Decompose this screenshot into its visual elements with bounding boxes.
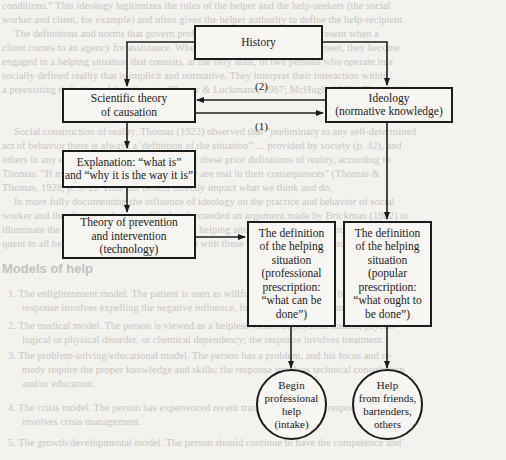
node-history-text: History <box>241 36 276 50</box>
node-begin-professional-help: Begin professional help (intake) <box>256 369 327 440</box>
node-explanation: Explanation: “what is” and “why it is th… <box>62 150 196 188</box>
node-text-line: of causation <box>101 106 157 120</box>
node-text-line: and “why it is the way it is” <box>65 169 193 183</box>
node-definition-professional: The definition of the helping situation … <box>247 221 336 327</box>
node-text-line: “what ought to <box>353 294 421 308</box>
node-text-line: bartenders, <box>363 405 412 418</box>
node-text-line: Scientific theory <box>91 92 167 106</box>
node-text-line: and intervention <box>91 230 166 244</box>
node-history: History <box>194 25 323 60</box>
node-text-line: Help <box>377 379 398 392</box>
node-text-line: situation <box>368 254 408 268</box>
node-text-line: prescription: <box>262 281 320 295</box>
node-help-from-friends: Help from friends, bartenders, others <box>352 369 423 440</box>
node-definition-popular: The definition of the helping situation … <box>343 221 432 327</box>
node-text-line: (normative knowledge) <box>335 105 443 119</box>
node-text-line: professional <box>265 392 319 405</box>
node-text-line: (professional <box>261 267 321 281</box>
edge-label-1: (1) <box>255 120 268 132</box>
node-text-line: (intake) <box>274 418 308 431</box>
node-text-line: (technology) <box>100 243 159 257</box>
node-text-line: situation <box>272 254 312 268</box>
node-text-line: done”) <box>276 308 307 322</box>
node-text-line: The definition <box>259 227 324 241</box>
node-text-line: others <box>374 418 401 431</box>
edge-history-to-ideology <box>322 42 387 85</box>
edge-history-to-science <box>127 42 194 86</box>
node-text-line: be done”) <box>365 308 410 322</box>
node-text-line: The definition <box>355 227 420 241</box>
node-scientific-theory: Scientific theory of causation <box>62 88 196 123</box>
node-text-line: help <box>282 405 301 418</box>
node-text-line: prescription: <box>358 281 416 295</box>
node-text-line: Explanation: “what is” <box>77 156 182 170</box>
node-theory-prevention: Theory of prevention and intervention (t… <box>62 214 196 259</box>
node-text-line: Theory of prevention <box>80 216 178 230</box>
node-text-line: from friends, <box>359 392 416 405</box>
node-text-line: of the helping <box>260 240 324 254</box>
node-text-line: (popular <box>368 267 407 281</box>
edge-label-2: (2) <box>255 80 268 92</box>
node-ideology: Ideology (normative knowledge) <box>325 87 453 123</box>
node-text-line: Ideology <box>369 92 410 106</box>
node-text-line: Begin <box>278 379 304 392</box>
node-text-line: “what can be <box>261 294 321 308</box>
node-text-line: of the helping <box>356 240 420 254</box>
